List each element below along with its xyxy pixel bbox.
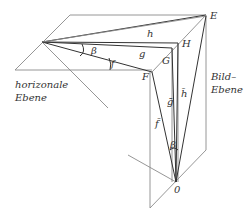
label-picture-plane-2: Ebene [210,84,243,95]
label-f-bar: f̄ [154,118,161,129]
label-g-bar: ḡ [167,96,173,107]
label-H: H [181,38,191,49]
angle-arc-beta-top [80,44,84,56]
label-g: g [139,48,145,59]
inner-frame [152,15,206,182]
label-O: 0 [174,184,181,195]
label-f: f [110,59,116,69]
label-picture-plane-1: Bild– [210,71,236,82]
label-horizontal-plane-2: Ebene [14,92,47,103]
label-horizontal-plane-1: horizonale [15,79,68,90]
perspective-diagram: E H G F 0 h g f β h̄ ḡ f̄ β horizonale E… [0,0,252,219]
label-h-bar: h̄ [181,88,187,99]
label-h: h [147,28,153,39]
label-beta-top: β [90,45,97,56]
label-G: G [162,55,170,66]
picture-plane [128,15,206,208]
rays-origin [152,16,206,182]
label-E: E [209,10,218,21]
label-beta-bottom: β [169,139,176,150]
label-F: F [141,71,150,82]
